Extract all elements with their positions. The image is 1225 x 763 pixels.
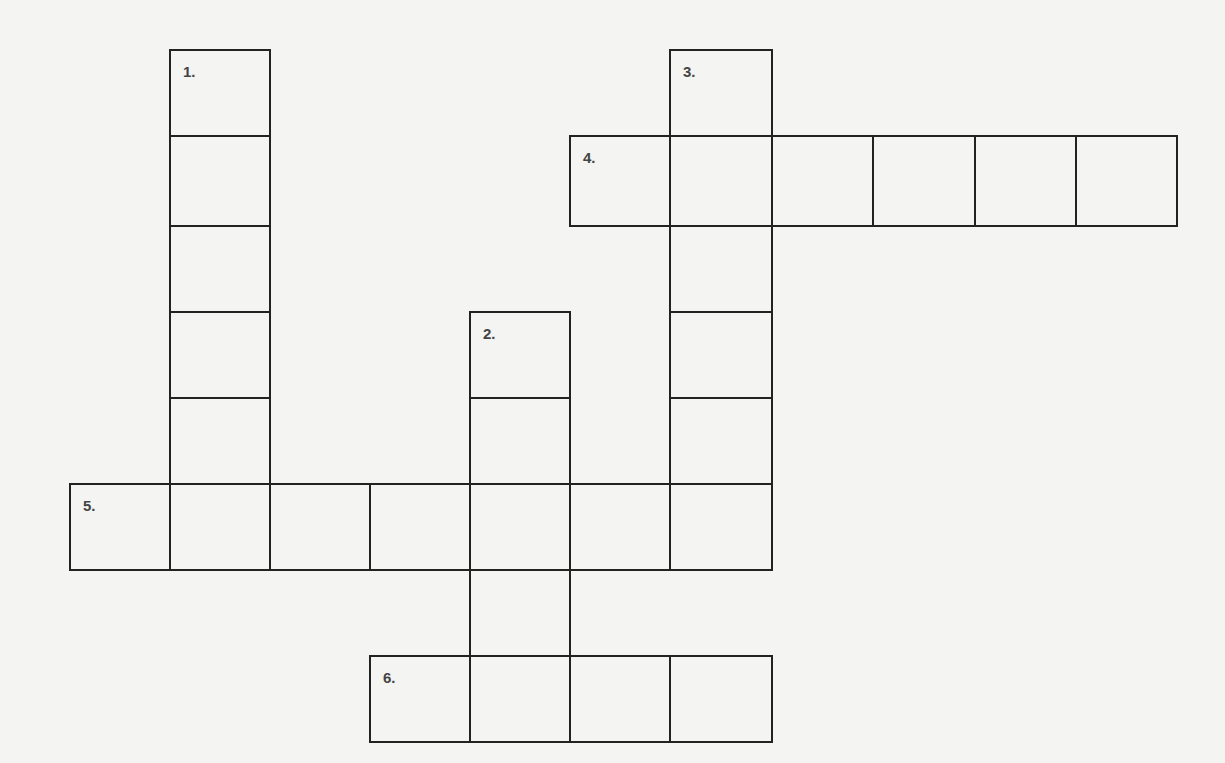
crossword-cell[interactable]	[669, 135, 773, 227]
crossword-cell[interactable]	[669, 483, 773, 571]
letter-input[interactable]	[371, 657, 469, 741]
crossword-cell[interactable]: 6.	[369, 655, 471, 743]
letter-input[interactable]	[671, 485, 771, 569]
letter-input[interactable]	[171, 313, 269, 397]
letter-input[interactable]	[671, 137, 771, 225]
crossword-cell[interactable]: 5.	[69, 483, 171, 571]
letter-input[interactable]	[471, 657, 569, 741]
letter-input[interactable]	[571, 657, 669, 741]
letter-input[interactable]	[171, 137, 269, 225]
letter-input[interactable]	[773, 137, 872, 225]
crossword-cell[interactable]	[469, 397, 571, 485]
crossword-cell[interactable]	[469, 655, 571, 743]
crossword-cell[interactable]	[169, 483, 271, 571]
crossword-cell[interactable]	[669, 311, 773, 399]
crossword-cell[interactable]	[169, 397, 271, 485]
crossword-cell[interactable]: 4.	[569, 135, 671, 227]
crossword-cell[interactable]: 1.	[169, 49, 271, 137]
letter-input[interactable]	[171, 51, 269, 135]
crossword-cell[interactable]	[872, 135, 976, 227]
letter-input[interactable]	[471, 571, 569, 655]
crossword-cell[interactable]	[669, 225, 773, 313]
letter-input[interactable]	[1077, 137, 1176, 225]
letter-input[interactable]	[671, 51, 771, 135]
letter-input[interactable]	[874, 137, 974, 225]
crossword-cell[interactable]	[669, 655, 773, 743]
crossword-cell[interactable]	[771, 135, 874, 227]
letter-input[interactable]	[671, 657, 771, 741]
letter-input[interactable]	[171, 399, 269, 483]
letter-input[interactable]	[371, 485, 469, 569]
letter-input[interactable]	[671, 227, 771, 311]
crossword-cell[interactable]	[469, 569, 571, 657]
crossword-cell[interactable]	[669, 397, 773, 485]
crossword-cell[interactable]	[569, 655, 671, 743]
letter-input[interactable]	[671, 313, 771, 397]
letter-input[interactable]	[671, 399, 771, 483]
crossword-cell[interactable]: 2.	[469, 311, 571, 399]
crossword-cell[interactable]	[569, 483, 671, 571]
letter-input[interactable]	[171, 227, 269, 311]
crossword-cell[interactable]	[269, 483, 371, 571]
crossword-cell[interactable]	[1075, 135, 1178, 227]
letter-input[interactable]	[271, 485, 369, 569]
letter-input[interactable]	[171, 485, 269, 569]
letter-input[interactable]	[471, 313, 569, 397]
crossword-cell[interactable]: 3.	[669, 49, 773, 137]
letter-input[interactable]	[471, 485, 569, 569]
letter-input[interactable]	[471, 399, 569, 483]
letter-input[interactable]	[571, 485, 669, 569]
crossword-cell[interactable]	[469, 483, 571, 571]
crossword-cell[interactable]	[974, 135, 1077, 227]
letter-input[interactable]	[571, 137, 669, 225]
crossword-cell[interactable]	[369, 483, 471, 571]
letter-input[interactable]	[71, 485, 169, 569]
crossword-grid: 1.2.3.4.5.6.	[0, 0, 1225, 763]
letter-input[interactable]	[976, 137, 1075, 225]
crossword-cell[interactable]	[169, 225, 271, 313]
crossword-cell[interactable]	[169, 311, 271, 399]
crossword-cell[interactable]	[169, 135, 271, 227]
